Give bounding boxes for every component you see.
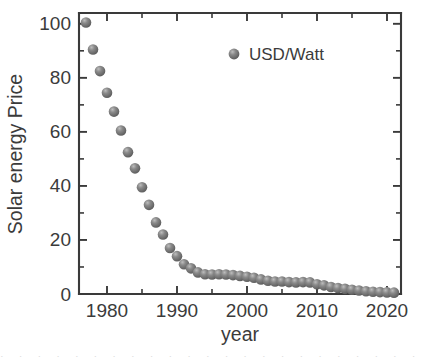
data-point[interactable] xyxy=(165,243,176,254)
data-point[interactable] xyxy=(389,287,400,298)
data-point[interactable] xyxy=(109,106,120,117)
legend-label-usd-watt: USD/Watt xyxy=(249,45,324,64)
chart-canvas: 020406080100 19801990200020102020 USD/Wa… xyxy=(0,0,424,357)
y-axis-title: Solar energy Price xyxy=(4,74,26,234)
x-tick-label: 2000 xyxy=(226,300,268,321)
data-point[interactable] xyxy=(130,163,141,174)
y-tick-label: 60 xyxy=(50,121,71,142)
data-point[interactable] xyxy=(123,147,134,158)
data-point[interactable] xyxy=(95,66,106,77)
data-point[interactable] xyxy=(158,229,169,240)
data-point[interactable] xyxy=(81,17,92,28)
x-tick-label: 2010 xyxy=(296,300,338,321)
x-tick-label: 1990 xyxy=(156,300,198,321)
data-point[interactable] xyxy=(102,87,113,98)
x-tick-label: 1980 xyxy=(86,300,128,321)
solar-price-chart-figure: 020406080100 19801990200020102020 USD/Wa… xyxy=(0,0,424,357)
data-point[interactable] xyxy=(137,182,148,193)
data-point[interactable] xyxy=(172,251,183,262)
y-tick-label: 40 xyxy=(50,175,71,196)
data-point[interactable] xyxy=(151,217,162,228)
data-point[interactable] xyxy=(116,125,127,136)
x-axis-title: year xyxy=(221,323,259,345)
x-tick-label: 2020 xyxy=(366,300,408,321)
bottom-edge-artifact: · · · · · · · · · · · · · · · · · · · · … xyxy=(0,350,424,357)
data-point[interactable] xyxy=(88,44,99,55)
data-point[interactable] xyxy=(144,200,155,211)
legend-sphere-marker xyxy=(229,49,240,60)
y-tick-label: 0 xyxy=(60,284,71,305)
y-tick-label: 80 xyxy=(50,67,71,88)
y-tick-label: 100 xyxy=(39,13,71,34)
y-tick-label: 20 xyxy=(50,229,71,250)
